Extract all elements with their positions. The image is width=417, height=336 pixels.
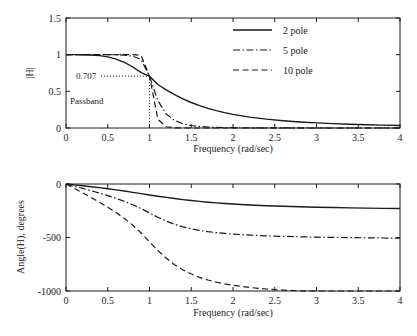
x-tick-label: 2 (231, 295, 236, 306)
x-tick-label: 1 (147, 295, 152, 306)
series-2-pole (66, 55, 400, 126)
legend: 2 pole 5 pole 10 pole (233, 25, 313, 76)
legend-line-samples (233, 30, 272, 70)
x-tick-label: 0 (64, 295, 69, 306)
phase-y-axis-label: Angle(H), degrees (15, 200, 27, 274)
y-tick-label: 0 (56, 179, 61, 190)
y-tick-label: 0.5 (49, 86, 62, 97)
magnitude-y-tick-labels: 00.511.5 (49, 13, 62, 134)
x-tick-label: 3.5 (352, 132, 365, 143)
phase-axes-frame (66, 184, 400, 291)
x-tick-label: 4 (398, 295, 403, 306)
magnitude-y-ticks (66, 18, 400, 128)
figure-canvas: 00.511.522.533.54 00.511.5 0.707 Passban… (0, 0, 417, 336)
cutoff-value-label: 0.707 (76, 71, 97, 81)
series-5-pole (66, 184, 400, 238)
x-tick-label: 3.5 (352, 295, 365, 306)
magnitude-plot: 00.511.522.533.54 00.511.5 0.707 Passban… (24, 13, 403, 156)
x-tick-label: 4 (398, 132, 403, 143)
magnitude-x-axis-label: Frequency (rad/sec) (193, 143, 273, 155)
x-tick-label: 1.5 (185, 132, 198, 143)
series-5-pole (66, 55, 400, 128)
y-tick-label: 1.5 (49, 13, 62, 24)
x-tick-label: 3 (314, 132, 319, 143)
phase-x-ticks (66, 184, 400, 291)
magnitude-curves (66, 55, 400, 128)
x-tick-label: 2.5 (269, 132, 282, 143)
y-tick-label: 0 (56, 123, 61, 134)
x-tick-label: 0 (64, 132, 69, 143)
magnitude-cutoff-guides (101, 76, 150, 128)
magnitude-axes-frame (66, 18, 400, 128)
magnitude-y-axis-label: |H| (24, 67, 35, 78)
x-tick-label: 2 (231, 132, 236, 143)
phase-x-axis-label: Frequency (rad/sec) (193, 307, 273, 319)
legend-label-2-pole: 2 pole (283, 25, 308, 36)
phase-y-tick-labels: 0-500-1000 (38, 179, 61, 297)
phase-x-tick-labels: 00.511.522.533.54 (64, 295, 403, 306)
phase-y-ticks (66, 184, 400, 291)
x-tick-label: 0.5 (102, 295, 115, 306)
y-tick-label: -1000 (38, 286, 61, 297)
y-tick-label: -500 (43, 232, 61, 243)
magnitude-x-tick-labels: 00.511.522.533.54 (64, 132, 403, 143)
bode-plot-figure: 00.511.522.533.54 00.511.5 0.707 Passban… (0, 0, 417, 336)
x-tick-label: 1.5 (185, 295, 198, 306)
phase-curves (66, 184, 400, 291)
magnitude-x-ticks (66, 18, 400, 128)
phase-plot: 00.511.522.533.54 0-500-1000 Frequency (… (15, 179, 403, 320)
x-tick-label: 3 (314, 295, 319, 306)
series-10-pole (66, 184, 400, 291)
x-tick-label: 0.5 (102, 132, 115, 143)
y-tick-label: 1 (56, 49, 61, 60)
passband-label: Passband (70, 96, 104, 106)
x-tick-label: 2.5 (269, 295, 282, 306)
x-tick-label: 1 (147, 132, 152, 143)
legend-label-10-pole: 10 pole (283, 65, 313, 76)
legend-label-5-pole: 5 pole (283, 45, 308, 56)
series-10-pole (66, 55, 400, 128)
